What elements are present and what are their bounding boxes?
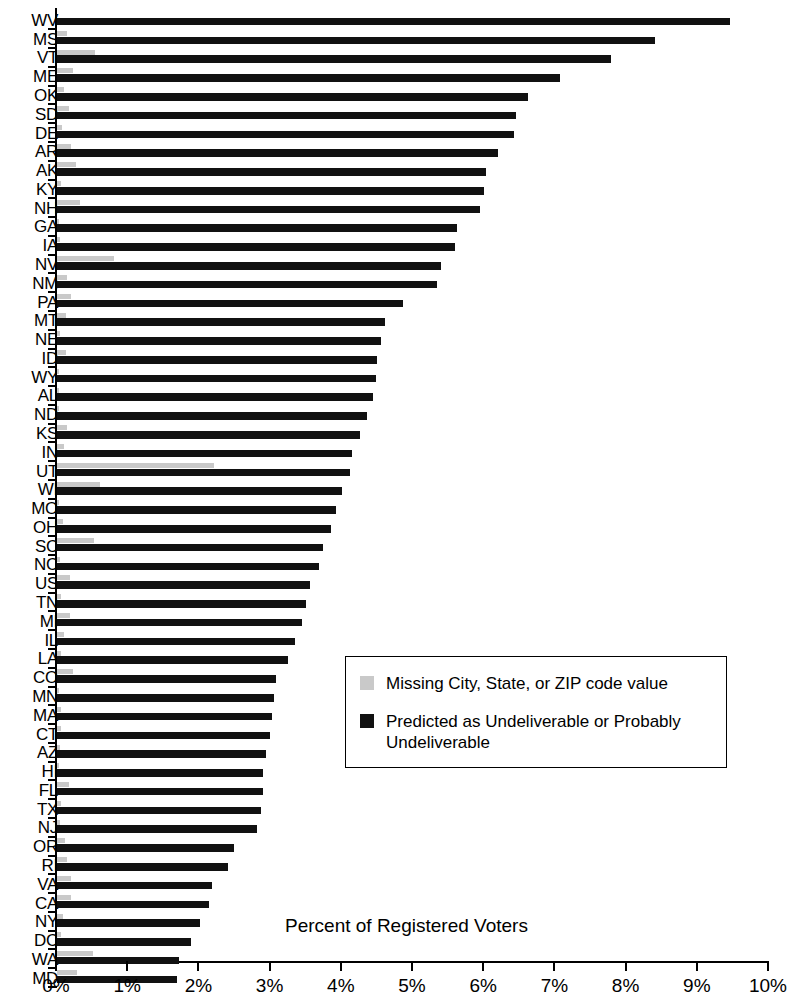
x-axis-tick-label: 0% [42,975,69,997]
x-axis-tick-label: 7% [541,975,568,997]
x-axis-tick-label: 3% [256,975,283,997]
x-axis-tick-label: 4% [327,975,354,997]
x-axis-tick [625,961,627,971]
x-axis-tick-label: 9% [683,975,710,997]
legend-item-missing: Missing City, State, or ZIP code value [360,673,668,694]
x-axis-tick [197,961,199,971]
x-axis-tick-label: 1% [113,975,140,997]
x-axis-tick-label: 2% [185,975,212,997]
x-axis-tick-label: 6% [469,975,496,997]
legend-swatch-undeliverable [360,714,374,728]
x-axis-tick [55,961,57,971]
x-axis-tick [340,961,342,971]
x-axis-tick [482,961,484,971]
x-axis-tick-label: 10% [749,975,787,997]
bar-chart: WVMSVTMEOKSDDEARAKKYNHGAIANVNMPAMTNEIDWY… [0,0,792,1006]
x-axis-tick-label: 5% [398,975,425,997]
legend-label-undeliverable: Predicted as Undeliverable or Probably U… [386,711,704,753]
chart-legend: Missing City, State, or ZIP code value P… [345,656,727,768]
legend-label-missing: Missing City, State, or ZIP code value [386,673,668,694]
x-axis-tick [411,961,413,971]
legend-swatch-missing [360,676,374,690]
x-axis-ticks: 0%1%2%3%4%5%6%7%8%9%10% [0,0,792,1006]
x-axis-tick [553,961,555,971]
x-axis-tick-label: 8% [612,975,639,997]
legend-item-undeliverable: Predicted as Undeliverable or Probably U… [360,711,704,753]
x-axis-title: Percent of Registered Voters [285,915,528,937]
x-axis-tick [269,961,271,971]
x-axis-tick [767,961,769,971]
x-axis-tick [126,961,128,971]
x-axis-tick [696,961,698,971]
